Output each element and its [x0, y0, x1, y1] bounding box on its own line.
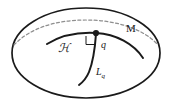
label-point-q: q [101, 40, 106, 50]
label-hypersurface-h: ℋ [58, 42, 70, 54]
label-line-lq-subscript: q [102, 72, 106, 80]
manifold-boundary-ellipse [12, 8, 160, 98]
normal-line-lq [79, 34, 96, 85]
diagram-svg [0, 0, 172, 107]
figure-canvas: M ℋ q Lq [0, 0, 172, 107]
label-manifold-m: M [126, 23, 136, 34]
label-line-lq: Lq [96, 67, 105, 80]
right-angle-marker [86, 36, 96, 45]
point-q-dot [93, 30, 99, 36]
